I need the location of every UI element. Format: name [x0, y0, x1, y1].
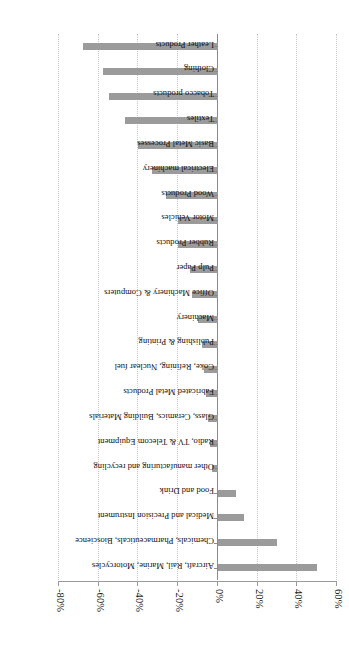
y-axis-tick-label: -80% — [55, 589, 66, 612]
y-axis-tick-label: -60% — [95, 589, 106, 612]
category-tick — [214, 568, 218, 569]
gridline — [177, 34, 178, 580]
category-tick — [214, 121, 218, 122]
category-tick — [214, 344, 218, 345]
category-tick — [214, 319, 218, 320]
category-label: Clothing — [184, 64, 214, 74]
category-tick — [214, 419, 218, 420]
category-label: Machinery — [177, 313, 214, 323]
category-tick — [214, 295, 218, 296]
category-label: Coke, Refining, Nuclear fuel — [114, 362, 214, 372]
category-label: Publishing & Printing — [138, 337, 213, 347]
gridline — [296, 34, 297, 580]
y-axis-tick-label: 20% — [254, 589, 265, 609]
category-label: Basic Metal Processes — [137, 139, 214, 149]
category-tick — [214, 518, 218, 519]
category-label: Motor Vehicles — [161, 213, 214, 223]
category-label: Glass, Ceramics, Building Materials — [89, 412, 214, 422]
category-label: Wood Products — [161, 189, 214, 199]
bar — [218, 490, 236, 497]
rotated-figure-wrapper: 60%40%20%0%-20%-40%-60%-80%Leather Produ… — [0, 0, 349, 646]
category-label: Leather Products — [155, 40, 213, 50]
category-label: Rubber Products — [156, 238, 214, 248]
category-tick — [214, 444, 218, 445]
bar — [218, 539, 278, 546]
y-axis-tick-label: 40% — [293, 589, 304, 609]
category-tick — [214, 493, 218, 494]
y-axis-tick-label: -40% — [134, 589, 145, 612]
category-label: Fabricated Metal Products — [123, 387, 214, 397]
category-tick — [214, 171, 218, 172]
gridline — [257, 34, 258, 580]
category-label: Chemicals, Pharmaceuticals, Bioscience — [75, 536, 214, 546]
category-label: Food and Drink — [159, 486, 213, 496]
category-tick — [214, 220, 218, 221]
gridline — [137, 34, 138, 580]
category-tick — [214, 46, 218, 47]
bar — [218, 514, 244, 521]
category-label: Electrical machinery — [143, 164, 214, 174]
y-axis-tick-label: 60% — [333, 589, 344, 609]
y-axis-tick-label: 0% — [214, 589, 225, 603]
category-label: Radio, TV & Telecom Equipment — [98, 437, 214, 447]
category-tick — [214, 369, 218, 370]
category-tick — [214, 245, 218, 246]
gridline — [336, 34, 337, 580]
category-label: Textiles — [187, 114, 214, 124]
value-axis-line — [59, 581, 337, 582]
category-label: Other manufacturing and recycling — [93, 462, 214, 472]
category-tick — [214, 468, 218, 469]
y-axis-tick-label: -20% — [174, 589, 185, 612]
category-tick — [214, 270, 218, 271]
gridline — [58, 34, 59, 580]
category-label: Medical and Precision Instrument — [98, 511, 214, 521]
category-tick — [214, 96, 218, 97]
category-label: Pulp Paper — [176, 263, 213, 273]
category-tick — [214, 146, 218, 147]
bar-chart-figure: 60%40%20%0%-20%-40%-60%-80%Leather Produ… — [0, 0, 349, 646]
plot-area: 60%40%20%0%-20%-40%-60%-80%Leather Produ… — [59, 34, 337, 580]
category-tick — [214, 543, 218, 544]
zero-axis-line — [217, 34, 218, 580]
category-label: Tobacco products — [153, 89, 214, 99]
category-tick — [214, 394, 218, 395]
category-tick — [214, 195, 218, 196]
category-label: Aircraft, Rail, Marine, Motorcycles — [92, 561, 214, 571]
bar — [218, 564, 317, 571]
gridline — [98, 34, 99, 580]
category-tick — [214, 71, 218, 72]
chart-page: 60%40%20%0%-20%-40%-60%-80%Leather Produ… — [0, 0, 349, 646]
category-label: Office Machinery & Computers — [104, 288, 214, 298]
